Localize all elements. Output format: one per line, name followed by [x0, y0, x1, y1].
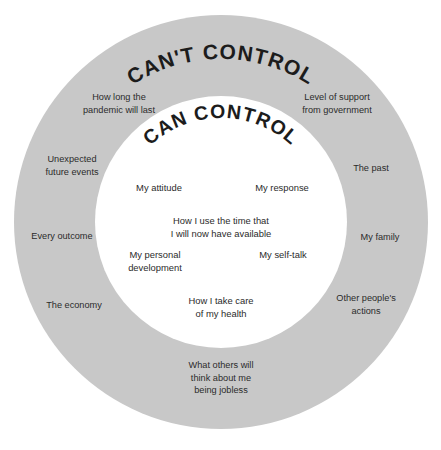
outer-item-the-past: The past [353, 162, 389, 175]
outer-item-what-others-think: What others will think about me being jo… [189, 359, 254, 397]
outer-item-unexpected-events: Unexpected future events [45, 153, 98, 178]
outer-item-my-family: My family [361, 231, 400, 244]
outer-item-pandemic-length: How long the pandemic will last [83, 91, 155, 116]
inner-item-my-self-talk: My self-talk [259, 249, 306, 262]
outer-item-the-economy: The economy [46, 299, 102, 312]
inner-item-my-response: My response [255, 182, 309, 195]
inner-item-personal-development: My personal development [128, 249, 182, 275]
inner-item-my-attitude: My attitude [136, 182, 182, 195]
inner-item-take-care-of-health: How I take care of my health [188, 295, 253, 321]
outer-item-other-peoples-actions: Other people's actions [336, 292, 395, 317]
inner-item-how-i-use-time: How I use the time that I will now have … [171, 215, 272, 241]
circle-of-control-diagram: CAN'T CONTROL CAN CONTROL How long the p… [0, 0, 441, 450]
outer-item-government-support: Level of support from government [302, 91, 371, 116]
outer-item-every-outcome: Every outcome [31, 230, 92, 243]
